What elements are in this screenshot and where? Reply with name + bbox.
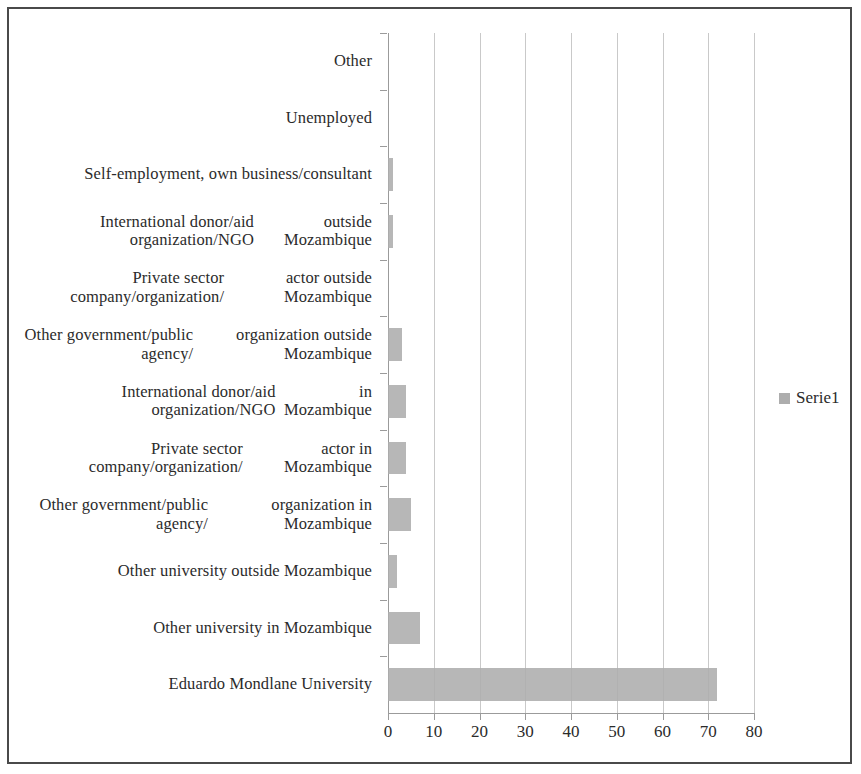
bar[interactable] — [388, 498, 411, 531]
y-axis-tick — [380, 260, 388, 317]
bar[interactable] — [388, 215, 393, 248]
y-axis-tick — [380, 373, 388, 430]
category-label-line: Eduardo Mondlane University — [169, 675, 372, 693]
x-axis-tick — [663, 713, 664, 720]
legend-label-serie1: Serie1 — [796, 388, 839, 408]
category-label-line: actor outside Mozambique — [224, 269, 372, 306]
category-label: Other university in Mozambique — [17, 600, 380, 657]
y-axis-tick — [380, 146, 388, 203]
x-axis-tick-label: 50 — [608, 722, 625, 742]
bar[interactable] — [388, 385, 406, 418]
x-axis-tick — [388, 713, 389, 720]
category-label-line: actor in Mozambique — [243, 440, 372, 477]
bar[interactable] — [388, 328, 402, 361]
plot-box — [388, 33, 754, 713]
x-axis-tick — [434, 713, 435, 720]
x-axis-tick-label: 10 — [425, 722, 442, 742]
bar[interactable] — [388, 555, 397, 588]
bar-slot — [388, 316, 754, 373]
category-label-line: Other government/public agency/ — [17, 326, 193, 363]
x-axis-tick-label: 0 — [384, 722, 393, 742]
x-axis-tick-label: 60 — [654, 722, 671, 742]
y-axis-tick — [380, 656, 388, 713]
category-axis-labels: Eduardo Mondlane UniversityOther univers… — [17, 33, 380, 713]
y-axis-tick — [380, 543, 388, 600]
category-label-line: outside Mozambique — [254, 213, 372, 250]
x-axis-tick — [617, 713, 618, 720]
x-axis-tick-label: 40 — [563, 722, 580, 742]
category-label-line: Self-employment, own business/ — [84, 165, 303, 183]
y-axis-tick — [380, 203, 388, 260]
bar-slot — [388, 543, 754, 600]
chart-plot-area: Eduardo Mondlane UniversityOther univers… — [9, 9, 850, 762]
x-axis-tick — [480, 713, 481, 720]
category-label-line: Unemployed — [286, 109, 372, 127]
bar[interactable] — [388, 442, 406, 475]
bar-slot — [388, 90, 754, 147]
category-label: Private sector company/organization/acto… — [17, 260, 380, 317]
category-label: Other government/public agency/organizat… — [17, 316, 380, 373]
category-label-line: Other government/public agency/ — [17, 496, 208, 533]
category-label-line: consultant — [303, 165, 372, 183]
bar-series-serie1 — [388, 33, 754, 713]
y-axis-tick — [380, 430, 388, 487]
y-axis-tick — [380, 600, 388, 657]
bar[interactable] — [388, 612, 420, 645]
x-axis-tick-label: 20 — [471, 722, 488, 742]
category-label-line: International donor/aid organization/NGO — [17, 383, 276, 420]
category-label: Unemployed — [17, 90, 380, 147]
y-axis-ticks — [380, 33, 388, 713]
category-label-line: Other — [334, 52, 372, 70]
category-label-line: Private sector company/organization/ — [17, 269, 224, 306]
bar[interactable] — [388, 668, 717, 701]
bar-slot — [388, 430, 754, 487]
bar-slot — [388, 600, 754, 657]
chart-figure-frame: Eduardo Mondlane UniversityOther univers… — [7, 7, 852, 764]
bar-slot — [388, 146, 754, 203]
category-label-line: Other university outside Mozambique — [118, 562, 372, 580]
bar-slot — [388, 656, 754, 713]
category-label: Other — [17, 33, 380, 90]
gridline — [754, 33, 755, 713]
legend-swatch-serie1 — [779, 393, 790, 404]
category-label-line: organization outside Mozambique — [193, 326, 372, 363]
chart-legend: Serie1 — [779, 388, 839, 408]
x-axis-tick-labels: 01020304050607080 — [388, 722, 754, 752]
category-label: Eduardo Mondlane University — [17, 656, 380, 713]
y-axis-tick — [380, 90, 388, 147]
category-label: International donor/aid organization/NGO… — [17, 203, 380, 260]
bar-slot — [388, 486, 754, 543]
bar[interactable] — [388, 158, 393, 191]
category-label: Other university outside Mozambique — [17, 543, 380, 600]
category-label-line: International donor/aid organization/NGO — [17, 213, 254, 250]
category-label-line: Private sector company/organization/ — [17, 440, 243, 477]
bar-slot — [388, 373, 754, 430]
category-label-line: in Mozambique — [276, 383, 372, 420]
x-axis-tick — [571, 713, 572, 720]
x-axis-tick-label: 70 — [700, 722, 717, 742]
category-label-line: Other university in Mozambique — [153, 619, 372, 637]
bar-slot — [388, 260, 754, 317]
category-label: Other government/public agency/organizat… — [17, 486, 380, 543]
x-axis-tick-label: 80 — [746, 722, 763, 742]
y-axis-tick — [380, 33, 388, 90]
x-axis-tick — [708, 713, 709, 720]
x-axis-ticks — [388, 713, 754, 721]
category-label-line: organization in Mozambique — [208, 496, 372, 533]
bar-slot — [388, 203, 754, 260]
x-axis-tick-label: 30 — [517, 722, 534, 742]
x-axis-tick — [754, 713, 755, 720]
bar-slot — [388, 33, 754, 90]
category-label: Private sector company/organization/acto… — [17, 430, 380, 487]
y-axis-tick — [380, 486, 388, 543]
category-label: Self-employment, own business/consultant — [17, 146, 380, 203]
x-axis-tick — [525, 713, 526, 720]
category-label: International donor/aid organization/NGO… — [17, 373, 380, 430]
y-axis-tick — [380, 316, 388, 373]
